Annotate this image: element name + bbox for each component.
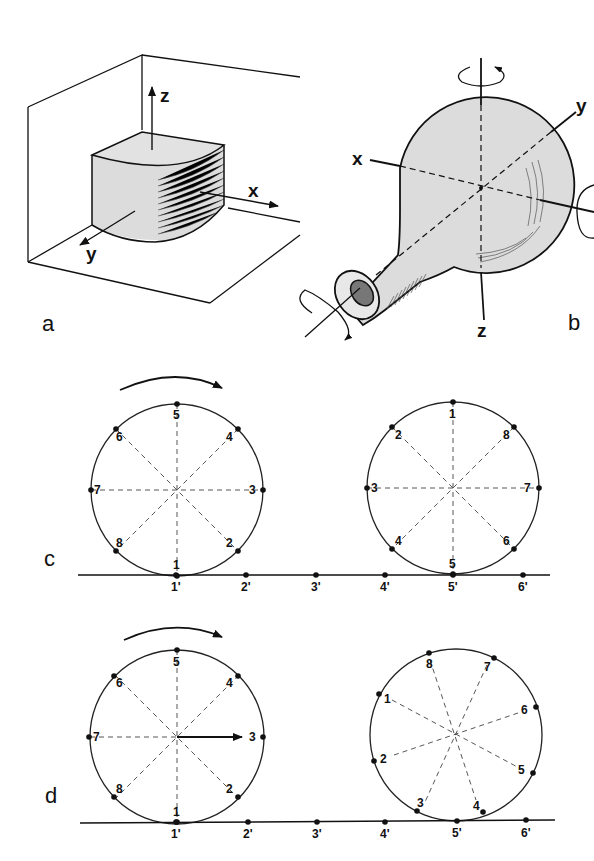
baseline-mark: 4' (380, 827, 390, 841)
point-label: 6 (503, 534, 510, 548)
point-label: 8 (116, 536, 123, 550)
baseline-mark: 1' (171, 827, 181, 841)
point-label: 6 (116, 430, 123, 444)
point-label: 5 (173, 655, 180, 669)
point-label: 3 (249, 730, 256, 744)
baseline-mark: 3' (311, 580, 321, 594)
rotation-arrow (120, 377, 222, 390)
point-label: 1 (173, 805, 180, 819)
axis-label-z: z (477, 320, 487, 341)
baseline-mark: 5' (452, 826, 462, 840)
point-label: 2 (380, 752, 387, 766)
figure: z x y a (0, 0, 594, 861)
point-label: 4 (226, 430, 233, 444)
baseline-mark: 6' (518, 580, 528, 594)
point-label: 1 (384, 692, 391, 706)
point-label: 1 (449, 407, 456, 421)
point-label: 5 (173, 408, 180, 422)
point-label: 1 (173, 558, 180, 572)
wheel-right: 1 2 3 4 5 6 7 8 (370, 649, 542, 821)
panel-label-d: d (45, 783, 57, 808)
point-label: 5 (518, 763, 525, 777)
baseline-mark: 2' (241, 580, 251, 594)
baseline-mark: 2' (243, 827, 253, 841)
point-label: 6 (521, 703, 528, 717)
point-label: 8 (503, 428, 510, 442)
panel-c: 1 2 3 4 5 6 7 8 1 2 (44, 377, 550, 594)
baseline-mark: 3' (312, 827, 322, 841)
axis-label-y: y (86, 243, 97, 264)
axis-label-y: y (576, 95, 587, 116)
baseline-mark: 6' (521, 826, 531, 840)
point-label: 2 (226, 536, 233, 550)
flask-shape (326, 97, 575, 328)
point-label: 3 (417, 796, 424, 810)
panel-b: x y z b (300, 58, 594, 341)
point-label: 7 (93, 730, 100, 744)
rotation-arrow (124, 628, 222, 640)
wheel-right: 1 2 3 4 5 6 7 8 (364, 399, 542, 577)
panel-label-c: c (44, 546, 55, 571)
panel-d: 1 2 3 4 5 6 7 8 1 2 (45, 628, 555, 841)
panel-label-b: b (568, 310, 580, 335)
point-label: 4 (395, 534, 402, 548)
axis-label-z: z (160, 85, 170, 106)
baseline-mark: 5' (448, 580, 458, 594)
point-label: 8 (426, 657, 433, 671)
point-label: 2 (395, 428, 402, 442)
baseline-mark: 4' (380, 580, 390, 594)
axis-label-x: x (248, 180, 259, 201)
panel-label-a: a (42, 311, 55, 336)
point-label: 4 (473, 799, 480, 813)
wheel-left: 1 2 3 4 5 6 7 8 (86, 647, 266, 825)
axis-label-x: x (352, 148, 363, 169)
point-label: 8 (116, 782, 123, 796)
panel-a: z x y a (28, 55, 300, 336)
point-label: 7 (94, 483, 101, 497)
wheel-left: 1 2 3 4 5 6 7 8 (88, 401, 266, 579)
point-label: 6 (116, 676, 123, 690)
point-label: 2 (226, 782, 233, 796)
baseline-mark: 1' (171, 580, 181, 594)
point-label: 7 (524, 481, 531, 495)
point-label: 4 (226, 676, 233, 690)
point-label: 5 (449, 557, 456, 571)
point-label: 3 (249, 483, 256, 497)
point-label: 7 (484, 660, 491, 674)
point-label: 3 (371, 481, 378, 495)
